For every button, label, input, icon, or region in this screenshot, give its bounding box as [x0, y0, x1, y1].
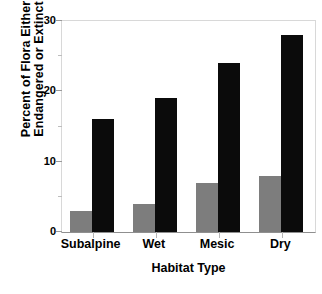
y-tick-label: 20	[30, 85, 56, 96]
y-tick-major	[56, 20, 62, 21]
y-tick-major	[56, 90, 62, 91]
y-tick-label: 0	[30, 226, 56, 237]
y-tick-minor	[58, 55, 62, 56]
bar-subalpine-black	[92, 119, 114, 232]
y-tick-label: 10	[30, 156, 56, 167]
x-axis-title: Habitat Type	[61, 262, 316, 275]
x-tick-label-mesic: Mesic	[200, 238, 235, 251]
y-tick-minor	[58, 196, 62, 197]
plot-inner	[62, 21, 315, 232]
y-axis-tick-labels: 0102030	[28, 0, 56, 294]
bar-chart: Percent of Flora Either Endangered or Ex…	[0, 0, 322, 294]
bar-mesic-black	[218, 63, 240, 232]
x-tick-label-dry: Dry	[270, 238, 291, 251]
y-tick-major	[56, 161, 62, 162]
y-tick-major	[56, 231, 62, 232]
bar-wet-black	[155, 98, 177, 232]
y-tick-minor	[58, 126, 62, 127]
x-tick-label-wet: Wet	[143, 238, 166, 251]
x-tick-label-subalpine: Subalpine	[61, 238, 121, 251]
bar-dry-black	[281, 35, 303, 232]
x-axis-tick-labels: SubalpineWetMesicDry	[61, 238, 316, 258]
y-tick-label: 30	[30, 15, 56, 26]
plot-area	[61, 20, 316, 233]
bar-wet-gray	[133, 204, 155, 232]
bar-mesic-gray	[196, 183, 218, 232]
bar-dry-gray	[259, 176, 281, 232]
bar-subalpine-gray	[70, 211, 92, 232]
